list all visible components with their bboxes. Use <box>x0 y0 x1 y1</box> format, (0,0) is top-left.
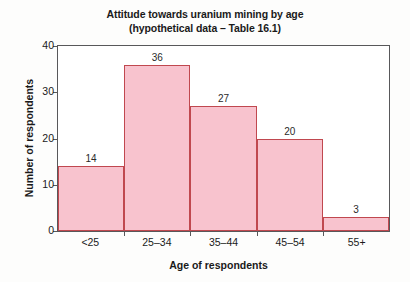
bar-value-label: 20 <box>258 126 322 138</box>
bar-slot: 14 <box>58 46 124 231</box>
x-tick-label: 55+ <box>323 236 390 248</box>
bar-slot: 3 <box>323 46 389 231</box>
x-axis-tick-labels: <25 25–34 35–44 45–54 55+ <box>57 236 390 248</box>
bar-slot: 27 <box>190 46 256 231</box>
y-tick-label: 30 <box>42 85 54 97</box>
y-tick-label: 40 <box>42 39 54 51</box>
bar-slot: 20 <box>257 46 323 231</box>
chart-figure: Attitude towards uranium mining by age (… <box>0 0 410 282</box>
y-tick-label: 10 <box>42 178 54 190</box>
y-axis-title: Number of respondents <box>21 38 37 238</box>
bar-value-label: 27 <box>191 93 255 105</box>
chart-title-line-1: Attitude towards uranium mining by age <box>0 7 410 21</box>
y-tick-label: 0 <box>48 224 54 236</box>
bar[interactable]: 3 <box>323 217 389 231</box>
plot-inner: 14 36 27 20 <box>58 46 389 231</box>
x-axis-title: Age of respondents <box>48 259 389 271</box>
chart-title-line-2: (hypothetical data – Table 16.1) <box>0 21 410 35</box>
chart-title: Attitude towards uranium mining by age (… <box>0 7 410 35</box>
x-tick-label: 25–34 <box>124 236 191 248</box>
bar[interactable]: 36 <box>124 65 190 232</box>
bar[interactable]: 27 <box>190 106 256 231</box>
bar-series: 14 36 27 20 <box>58 46 389 231</box>
x-tick-label: 45–54 <box>257 236 324 248</box>
bar-value-label: 36 <box>125 52 189 64</box>
bar[interactable]: 20 <box>257 139 323 232</box>
bar[interactable]: 14 <box>58 166 124 231</box>
bar-value-label: 14 <box>59 153 123 165</box>
x-tick-label: <25 <box>57 236 124 248</box>
plot-area: 14 36 27 20 <box>57 45 390 232</box>
y-tick-label: 20 <box>42 132 54 144</box>
bar-value-label: 3 <box>324 204 388 216</box>
bar-slot: 36 <box>124 46 190 231</box>
x-tick-label: 35–44 <box>190 236 257 248</box>
